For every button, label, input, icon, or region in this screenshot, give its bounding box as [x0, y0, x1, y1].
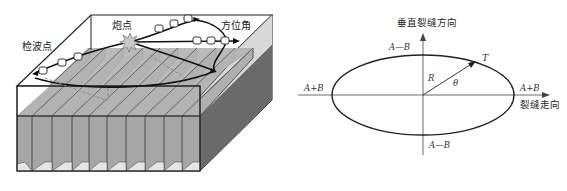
fracture-block-diagram: 检波点 炮点 方位角 — [0, 0, 290, 191]
azimuth-ellipse-diagram: 垂直裂缝方向 裂缝走向 A—B A—B A+B A+B R θ T — [290, 0, 567, 191]
ellipse-svg — [290, 0, 567, 191]
horizontal-axis-label: 裂缝走向 — [520, 100, 560, 110]
vertical-axis-label: 垂直裂缝方向 — [397, 18, 457, 28]
top-label: A—B — [389, 43, 410, 52]
azimuth-label: 方位角 — [221, 21, 251, 31]
right-label: A+B — [520, 84, 540, 93]
tip-label: T — [482, 53, 488, 63]
radius-label: R — [428, 74, 434, 83]
horizontal-axis-arrow-icon — [542, 92, 550, 98]
angle-label: θ — [453, 79, 458, 88]
radius-arrow-icon — [468, 61, 476, 68]
receiver-point-label: 检波点 — [22, 42, 52, 52]
vertical-axis-arrow-icon — [420, 33, 426, 41]
shot-point-label: 炮点 — [112, 21, 132, 31]
left-label: A+B — [304, 84, 324, 93]
bottom-label: A—B — [429, 141, 450, 150]
